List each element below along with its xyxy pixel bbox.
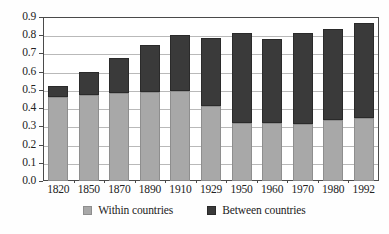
legend-label-within: Within countries — [98, 205, 173, 217]
bar-segment — [262, 123, 282, 181]
bar-stack — [109, 58, 129, 181]
y-tick-label: 0.1 — [22, 157, 36, 169]
x-tick-label: 1820 — [47, 184, 69, 196]
x-tick-mark — [348, 180, 349, 183]
chart-legend: Within countries Between countries — [0, 205, 389, 217]
bar-stack — [323, 29, 343, 181]
y-tick-mark — [39, 181, 43, 182]
bar-segment — [109, 58, 129, 93]
y-tick-label: 0.6 — [22, 66, 36, 78]
bar-stack — [170, 35, 190, 181]
x-tick-mark — [74, 180, 75, 183]
y-tick-label: 0.9 — [22, 11, 36, 23]
y-tick-label: 0.2 — [22, 139, 36, 151]
x-tick-label: 1929 — [200, 184, 222, 196]
bar-segment — [170, 91, 190, 181]
bar-stack — [79, 72, 99, 181]
x-tick-label: 1960 — [261, 184, 283, 196]
bar-segment — [48, 97, 68, 181]
x-tick-mark — [257, 180, 258, 183]
x-tick-label: 1910 — [169, 184, 191, 196]
bar-segment — [201, 106, 221, 181]
x-tick-mark — [287, 180, 288, 183]
y-tick-label: 0.4 — [22, 102, 36, 114]
bar-segment — [79, 72, 99, 96]
legend-item-within: Within countries — [83, 205, 173, 217]
x-tick-label: 1970 — [292, 184, 314, 196]
bar-stack — [140, 45, 160, 181]
y-tick-label: 0.7 — [22, 48, 36, 60]
x-tick-mark — [104, 180, 105, 183]
x-tick-label: 1992 — [353, 184, 375, 196]
x-tick-mark — [165, 180, 166, 183]
y-axis: 0.00.10.20.30.40.50.60.70.80.9 — [0, 0, 43, 200]
x-tick-label: 1870 — [108, 184, 130, 196]
x-tick-mark — [135, 180, 136, 183]
bar-stack — [48, 86, 68, 181]
y-tick-label: 0.5 — [22, 84, 36, 96]
y-tick-label: 0.8 — [22, 29, 36, 41]
bar-stack — [232, 33, 252, 181]
bar-stack — [354, 23, 374, 181]
bar-stack — [201, 38, 221, 181]
bar-segment — [232, 33, 252, 122]
x-tick-label: 1950 — [230, 184, 252, 196]
x-axis: 1820185018701890191019291950196019701980… — [43, 183, 379, 201]
y-tick-label: 0.3 — [22, 121, 36, 133]
legend-swatch-within-icon — [83, 206, 92, 215]
bar-stack — [262, 39, 282, 181]
bar-segment — [201, 38, 221, 106]
bar-segment — [170, 35, 190, 91]
legend-item-between: Between countries — [207, 205, 306, 217]
legend-label-between: Between countries — [222, 205, 306, 217]
legend-swatch-between-icon — [207, 206, 216, 215]
bar-segment — [109, 93, 129, 181]
x-tick-mark — [318, 180, 319, 183]
bar-segment — [262, 39, 282, 123]
bar-segment — [293, 124, 313, 181]
bar-segment — [354, 23, 374, 118]
bar-segment — [323, 120, 343, 181]
bar-segment — [48, 86, 68, 97]
bar-stack — [293, 33, 313, 181]
bar-segment — [354, 118, 374, 181]
x-tick-mark — [196, 180, 197, 183]
x-tick-label: 1980 — [322, 184, 344, 196]
bar-segment — [232, 123, 252, 181]
x-tick-label: 1890 — [139, 184, 161, 196]
bar-segment — [293, 33, 313, 123]
bar-segment — [140, 45, 160, 91]
x-tick-label: 1850 — [78, 184, 100, 196]
bar-segment — [140, 92, 160, 181]
inequality-decomposition-bar-chart: 0.00.10.20.30.40.50.60.70.80.9 182018501… — [0, 0, 389, 234]
bars-layer — [43, 17, 379, 181]
y-tick-label: 0.0 — [22, 175, 36, 187]
bar-segment — [323, 29, 343, 120]
x-tick-mark — [226, 180, 227, 183]
bar-segment — [79, 95, 99, 181]
